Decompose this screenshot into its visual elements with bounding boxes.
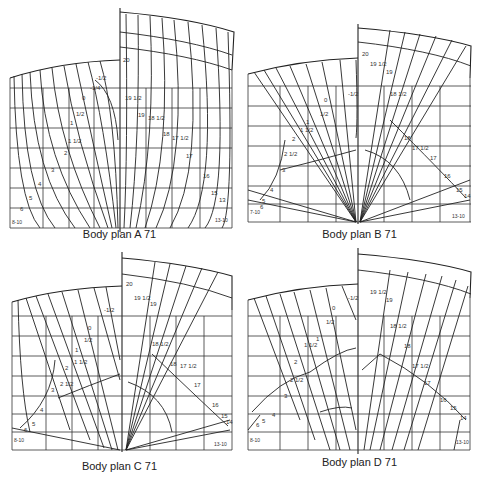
station-label: 1/2 xyxy=(76,111,85,117)
body-plan-a-drawing: -1/2 -1/4 0 1/2 1 1 1/2 2 3 4 5 6 8-10 2… xyxy=(0,0,239,240)
station-label: 0 xyxy=(88,325,92,331)
station-label: 2 xyxy=(294,359,298,365)
caption-body-plan-c: Body plan C 71 xyxy=(0,460,239,472)
station-label: 4 xyxy=(40,407,44,413)
station-label: 15 xyxy=(456,187,463,193)
caption-body-plan-d: Body plan D 71 xyxy=(240,456,478,468)
station-label: 19 1/2 xyxy=(134,295,151,301)
station-label: 1/2 xyxy=(326,319,335,325)
station-label: 17 xyxy=(430,155,437,161)
station-label: 2 xyxy=(292,136,296,142)
station-label: -1/2 xyxy=(104,307,115,313)
station-label: 20 xyxy=(126,281,133,287)
station-label: 1 1/2 xyxy=(304,342,318,348)
station-label: 19 xyxy=(150,301,157,307)
station-label: 18 xyxy=(404,343,411,349)
station-label: 13-10 xyxy=(456,439,469,445)
station-label: 6 xyxy=(256,422,260,428)
station-label: 1/2 xyxy=(84,337,93,343)
station-label: 17 1/2 xyxy=(172,135,189,141)
station-label: 8-10 xyxy=(14,437,24,443)
station-label: 1 xyxy=(75,347,79,353)
station-label: -1/4 xyxy=(90,85,101,91)
station-label: 2 1/2 xyxy=(60,381,74,387)
station-label: 18 1/2 xyxy=(390,323,407,329)
station-label: 13-10 xyxy=(215,217,228,223)
station-label: 13-10 xyxy=(452,213,465,219)
station-label: 0 xyxy=(332,305,336,311)
station-label: 18 1/2 xyxy=(390,91,407,97)
body-plan-c: -1/2 0 1/2 1 1 1/2 2 2 1/2 3 4 5 6 8-10 … xyxy=(0,240,239,479)
station-label: 4 xyxy=(272,412,276,418)
body-plan-d-drawing: -1/2 0 1/2 1 1 1/2 2 2 1/2 3 4 5 6 8-10 … xyxy=(240,240,478,479)
station-label: 16 xyxy=(440,397,447,403)
station-label: 1 xyxy=(306,119,310,125)
station-label: 2 1/2 xyxy=(290,377,304,383)
station-label: 19 1/2 xyxy=(370,61,387,67)
station-label: 18 xyxy=(163,131,170,137)
body-plan-a: -1/2 -1/4 0 1/2 1 1 1/2 2 3 4 5 6 8-10 2… xyxy=(0,0,239,240)
station-label: 17 xyxy=(424,380,431,386)
station-label: 14 xyxy=(226,419,233,425)
station-label: 0 xyxy=(324,97,328,103)
station-label: 2 xyxy=(65,365,69,371)
station-label: 4 xyxy=(270,187,274,193)
station-label: 15 xyxy=(211,190,218,196)
station-label: 1 1/2 xyxy=(74,359,88,365)
station-label: 19 1/2 xyxy=(370,289,387,295)
station-label: 18 xyxy=(404,135,411,141)
station-label: 18 1/2 xyxy=(152,341,169,347)
station-label: 16 xyxy=(444,173,451,179)
station-label: 7-10 xyxy=(250,209,260,215)
station-label: 1 1/2 xyxy=(300,127,314,133)
station-label: 8-10 xyxy=(250,437,260,443)
body-plan-b-drawing: -1/2 0 1/2 1 1 1/2 2 2 1/2 3 4 5 6 7-10 … xyxy=(240,0,478,240)
body-plan-b: -1/2 0 1/2 1 1 1/2 2 2 1/2 3 4 5 6 7-10 … xyxy=(240,0,478,240)
station-label: 2 xyxy=(64,150,68,156)
station-label: 4 xyxy=(38,181,42,187)
station-label: 1/2 xyxy=(320,111,329,117)
station-label: 1 1/2 xyxy=(68,138,82,144)
station-label: 20 xyxy=(362,51,369,57)
station-label: 5 xyxy=(29,195,33,201)
station-label: 6 xyxy=(20,206,24,212)
caption-body-plan-b: Body plan B 71 xyxy=(240,228,478,240)
station-label: 1 xyxy=(70,120,74,126)
station-label: -1/2 xyxy=(96,75,107,81)
caption-body-plan-a: Body plan A 71 xyxy=(0,228,239,240)
body-plan-d: -1/2 0 1/2 1 1 1/2 2 2 1/2 3 4 5 6 8-10 … xyxy=(240,240,478,479)
station-label: 17 xyxy=(194,382,201,388)
station-label: 19 xyxy=(138,112,145,118)
station-label: 17 xyxy=(186,153,193,159)
station-label: 16 xyxy=(203,173,210,179)
station-label: 19 1/2 xyxy=(125,95,142,101)
station-label: 15 xyxy=(450,405,457,411)
station-label: 6 xyxy=(260,204,264,210)
station-label: 20 xyxy=(123,57,130,63)
station-label: 5 xyxy=(262,418,266,424)
body-plan-c-drawing: -1/2 0 1/2 1 1 1/2 2 2 1/2 3 4 5 6 8-10 … xyxy=(0,240,240,479)
station-label: 3 xyxy=(51,387,55,393)
station-label: 3 xyxy=(282,167,286,173)
station-label: 18 xyxy=(170,361,177,367)
station-label: 0 xyxy=(82,95,86,101)
station-label: 5 xyxy=(32,421,36,427)
station-label: -1/2 xyxy=(348,295,359,301)
station-label: 14 xyxy=(464,193,471,199)
station-label: 2 1/2 xyxy=(284,151,298,157)
station-label: 19 xyxy=(386,297,393,303)
station-label: 8-10 xyxy=(12,219,22,225)
station-label: 17 1/2 xyxy=(412,145,429,151)
station-label: 14 xyxy=(460,415,467,421)
station-label: 19 xyxy=(386,69,393,75)
station-label: -1/2 xyxy=(348,91,359,97)
station-label: 13 xyxy=(219,197,226,203)
station-label: 17 1/2 xyxy=(412,363,429,369)
station-label: 17 1/2 xyxy=(180,363,197,369)
station-label: 16 xyxy=(212,402,219,408)
station-label: 18 1/2 xyxy=(148,115,165,121)
station-label: 13-10 xyxy=(214,441,227,447)
